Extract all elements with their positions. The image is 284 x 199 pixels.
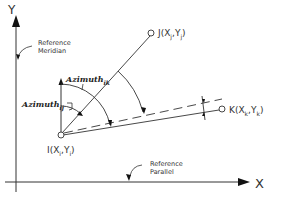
reference-meridian-annotation: Reference Meridian [16,39,71,60]
azimuth-ik-arc [61,84,110,125]
point-k-marker [219,106,225,112]
y-axis-label: Y [7,3,16,17]
reference-meridian-label-line1: Reference [38,39,71,47]
reference-parallel-label-line1: Reference [150,160,183,168]
point-j-marker [148,30,154,36]
x-axis-arrow-icon [238,178,250,186]
azimuth-diagram: Y X Reference Meridian Reference Paralle… [0,0,284,199]
point-i-label: I(Xi,Yi) [47,145,75,157]
x-axis: X [5,176,264,191]
y-axis: Y [7,3,20,192]
reference-parallel-annotation: Reference Parallel [126,160,183,181]
angle-jik-arc [118,71,143,112]
point-k-label: K(Xk,Yk) [229,105,263,117]
azimuth-ij-label: Azimuthij [21,99,65,112]
azimuth-ik-label: Azimuthik [65,74,110,86]
x-axis-label: X [255,176,264,191]
point-i-marker [58,132,64,138]
line-ik [63,110,219,135]
leader-arrow-icon [126,174,131,181]
reference-meridian-label-line2: Meridian [38,47,66,55]
point-j-label: J(Xj,Yj) [157,28,186,41]
angle-jik-arrow-icon [141,107,146,114]
reference-parallel-label-line2: Parallel [150,168,174,176]
leader-arrow-icon [16,54,20,60]
